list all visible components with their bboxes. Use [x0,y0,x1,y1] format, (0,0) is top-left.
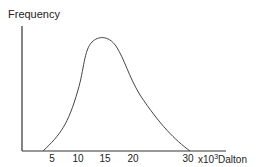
x-tick-30: 30 [182,153,193,164]
y-axis-label: Frequency [8,8,60,20]
chart-plot [0,0,265,167]
x-tick-10: 10 [72,153,83,164]
x-axis-label: x103Dalton [198,153,247,165]
x-tick-15: 15 [99,153,110,164]
distribution-curve [43,38,190,151]
x-tick-5: 5 [49,153,55,164]
x-tick-20: 20 [127,153,138,164]
